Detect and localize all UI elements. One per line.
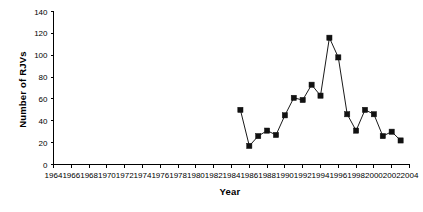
x-tick-label: 1990 <box>276 171 294 180</box>
data-point-marker <box>362 107 367 112</box>
line-chart-plot: 020406080100120140 196419661968197019721… <box>0 0 423 212</box>
x-tick-label: 1988 <box>258 171 276 180</box>
x-tick-label: 1980 <box>187 171 205 180</box>
x-tick-label: 1976 <box>151 171 169 180</box>
y-tick-label: 100 <box>34 51 48 60</box>
data-point-marker <box>336 55 341 60</box>
data-point-marker <box>291 95 296 100</box>
data-point-marker <box>371 112 376 117</box>
y-tick-label: 20 <box>39 139 48 148</box>
x-tick-label: 1986 <box>240 171 258 180</box>
x-tick-label: 2004 <box>401 171 419 180</box>
x-tick-label: 1974 <box>134 171 152 180</box>
x-tick-label: 2000 <box>365 171 383 180</box>
y-tick-label-group: 020406080100120140 <box>34 8 48 170</box>
x-tick-label: 1972 <box>116 171 134 180</box>
data-point-marker <box>354 128 359 133</box>
data-point-markers <box>238 35 403 148</box>
data-point-marker <box>380 133 385 138</box>
data-point-marker <box>300 97 305 102</box>
x-tick-label: 1994 <box>312 171 330 180</box>
x-tick-label: 1984 <box>223 171 241 180</box>
y-tick-label: 80 <box>39 73 48 82</box>
x-tick-label: 1982 <box>205 171 223 180</box>
chart-figure: Number of RJVs Year 020406080100120140 1… <box>0 0 423 212</box>
y-tick-label: 60 <box>39 95 48 104</box>
x-tick-label-group: 1964196619681970197219741976197819801982… <box>45 171 419 180</box>
y-tick-label: 40 <box>39 117 48 126</box>
x-tick-label: 1978 <box>169 171 187 180</box>
x-tick-label: 1968 <box>80 171 98 180</box>
x-tick-label: 1992 <box>294 171 312 180</box>
x-tick-label: 1998 <box>347 171 365 180</box>
data-point-marker <box>345 112 350 117</box>
data-point-marker <box>238 107 243 112</box>
data-point-marker <box>247 143 252 148</box>
x-tick-label: 1966 <box>62 171 80 180</box>
data-point-marker <box>282 113 287 118</box>
y-tick-label: 120 <box>34 29 48 38</box>
data-point-marker <box>398 138 403 143</box>
x-tick-label: 1964 <box>45 171 63 180</box>
data-point-marker <box>318 93 323 98</box>
data-point-marker <box>327 35 332 40</box>
data-point-marker <box>309 82 314 87</box>
y-tick-label: 0 <box>43 161 48 170</box>
data-point-marker <box>389 129 394 134</box>
data-point-marker <box>273 132 278 137</box>
data-point-marker <box>256 133 261 138</box>
x-tick-label: 1970 <box>98 171 116 180</box>
x-tick-label: 2002 <box>383 171 401 180</box>
x-tick-label: 1996 <box>329 171 347 180</box>
data-point-marker <box>265 128 270 133</box>
y-tick-label: 140 <box>34 8 48 17</box>
